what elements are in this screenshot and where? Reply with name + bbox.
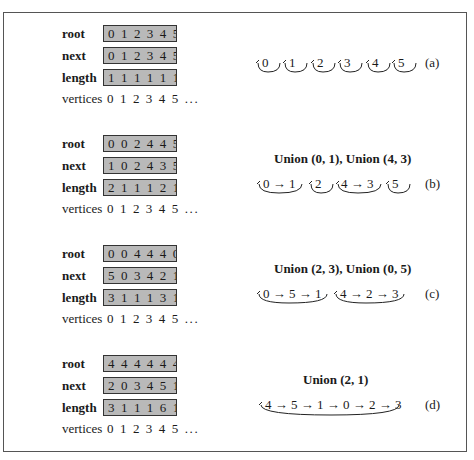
panel-c: root 0 0 4 4 4 0 ... next 5 0 3 4 2 1 ..…	[0, 220, 474, 330]
panel-tag: (b)	[425, 176, 440, 192]
chain-loop-arrows	[0, 330, 474, 440]
panel-a: root 0 1 2 3 4 5 ... next 0 1 2 3 4 5 ..…	[0, 0, 474, 110]
panel-b: root 0 0 2 4 4 5 ... next 1 0 2 4 3 5 ..…	[0, 110, 474, 220]
chain-loop-arrows	[0, 110, 474, 220]
panel-d: root 4 4 4 4 4 4 ... next 2 0 3 4 5 1 ..…	[0, 330, 474, 440]
panel-tag: (a)	[425, 55, 439, 71]
panel-tag: (d)	[425, 397, 440, 413]
chain-loop-arrows	[0, 220, 474, 330]
self-loop-arrows	[0, 0, 474, 110]
panel-tag: (c)	[425, 286, 439, 302]
